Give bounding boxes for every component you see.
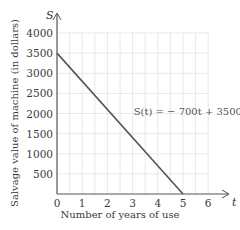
y-tick-label: 4000 [26, 27, 53, 39]
x-tick-label: 4 [154, 197, 161, 209]
x-tick-label: 5 [180, 197, 187, 209]
y-tick-label: 3000 [26, 67, 53, 79]
y-axis-symbol: S [46, 9, 54, 22]
x-axis-label: Number of years of use [61, 209, 180, 220]
y-axis-label: Salvage value of machine (in dollars) [9, 19, 20, 207]
x-tick-label: 1 [79, 197, 86, 209]
equation-annotation: S(t) = − 700t + 3500 [134, 106, 240, 117]
y-tick-label: 3500 [26, 47, 53, 59]
y-tick-label: 1000 [26, 148, 53, 160]
tick-labels: 01234565001000150020002500300035004000 [26, 27, 212, 209]
x-tick-label: 6 [205, 197, 212, 209]
chart: 01234565001000150020002500300035004000 S… [0, 0, 240, 230]
x-tick-label: 3 [129, 197, 136, 209]
y-tick-label: 500 [33, 168, 53, 180]
y-tick-label: 1500 [26, 128, 53, 140]
x-tick-label: 2 [104, 197, 111, 209]
x-axis-symbol: t [232, 196, 237, 209]
x-tick-label: 0 [54, 197, 61, 209]
y-tick-label: 2000 [26, 108, 53, 120]
y-tick-label: 2500 [26, 87, 53, 99]
